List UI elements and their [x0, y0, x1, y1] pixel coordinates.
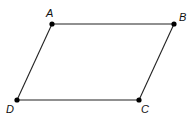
- edge-bc: [139, 24, 174, 100]
- edges: [17, 24, 174, 100]
- parallelogram-diagram: A B C D: [0, 0, 194, 121]
- edge-da: [17, 24, 52, 100]
- vertex-d: [14, 97, 19, 102]
- vertex-c: [136, 97, 141, 102]
- vertex-b: [171, 21, 176, 26]
- label-b: B: [179, 11, 186, 23]
- vertex-labels: A B C D: [6, 7, 186, 115]
- vertices: [14, 21, 176, 102]
- vertex-a: [49, 21, 54, 26]
- label-d: D: [6, 103, 14, 115]
- label-c: C: [141, 103, 149, 115]
- label-a: A: [45, 7, 53, 19]
